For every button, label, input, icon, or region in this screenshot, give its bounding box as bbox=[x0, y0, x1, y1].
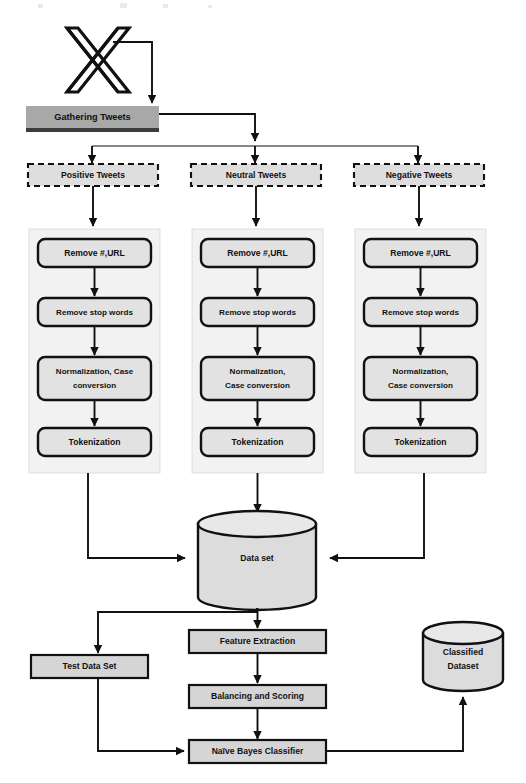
pipeline-positive-step-remove-url: Remove #,URL bbox=[38, 239, 151, 267]
step-label: Remove stop words bbox=[56, 308, 133, 317]
step-label-line1: Normalization, bbox=[230, 367, 286, 376]
step-label: Tokenization bbox=[395, 437, 447, 447]
pipeline-negative-step-remove-url: Remove #,URL bbox=[364, 239, 477, 267]
datastore-classified-dataset: Classified Dataset bbox=[423, 622, 503, 691]
step-label: Remove #,URL bbox=[390, 248, 451, 258]
pipeline-neutral-step-tokenization: Tokenization bbox=[201, 428, 314, 456]
connector-negative-to-dataset bbox=[330, 473, 424, 558]
step-label: Remove stop words bbox=[382, 308, 459, 317]
flowchart-diagram: Gathering Tweets Positive Tweets Neutral… bbox=[0, 0, 526, 783]
gathering-tweets-node: Gathering Tweets bbox=[26, 106, 159, 132]
data-set-label: Data set bbox=[240, 553, 274, 563]
step-label-line1: Normalization, bbox=[393, 367, 449, 376]
test-data-set-label: Test Data Set bbox=[63, 661, 117, 671]
node-balancing-and-scoring: Balancing and Scoring bbox=[189, 685, 326, 708]
classified-dataset-label-line1: Classified bbox=[443, 647, 484, 657]
pipeline-neutral-step-remove-stopwords: Remove stop words bbox=[201, 298, 314, 326]
node-test-data-set: Test Data Set bbox=[31, 655, 148, 678]
feature-extraction-label: Feature Extraction bbox=[220, 636, 295, 646]
flowchart-canvas: Gathering Tweets Positive Tweets Neutral… bbox=[0, 0, 526, 783]
datastore-data-set: Data set bbox=[198, 511, 316, 610]
branch-neutral-tweets: Neutral Tweets bbox=[191, 164, 321, 186]
pipeline-negative-step-normalization: Normalization, Case conversion bbox=[364, 357, 477, 400]
branch-positive-label: Positive Tweets bbox=[61, 170, 125, 180]
gathering-tweets-label: Gathering Tweets bbox=[54, 112, 130, 122]
step-label: Remove stop words bbox=[219, 308, 296, 317]
scan-artifacts bbox=[38, 3, 212, 8]
branch-negative-label: Negative Tweets bbox=[386, 170, 453, 180]
x-twitter-logo bbox=[67, 28, 129, 92]
step-label-line1: Normalization, Case bbox=[56, 367, 134, 376]
step-label-line2: conversion bbox=[73, 381, 116, 390]
step-label: Tokenization bbox=[69, 437, 121, 447]
pipeline-negative-step-remove-stopwords: Remove stop words bbox=[364, 298, 477, 326]
connector-classifier-to-classified-dataset bbox=[326, 697, 463, 751]
pipeline-negative-step-tokenization: Tokenization bbox=[364, 428, 477, 456]
node-naive-bayes-classifier: Naïve Bayes Classifier bbox=[189, 740, 326, 763]
branch-neutral-label: Neutral Tweets bbox=[226, 170, 287, 180]
connector-positive-to-dataset bbox=[88, 473, 185, 558]
pipeline-positive-step-normalization: Normalization, Case conversion bbox=[38, 357, 151, 400]
step-label: Tokenization bbox=[232, 437, 284, 447]
pipeline-positive-step-tokenization: Tokenization bbox=[38, 428, 151, 456]
step-label-line2: Case conversion bbox=[225, 381, 290, 390]
pipeline-neutral-step-remove-url: Remove #,URL bbox=[201, 239, 314, 267]
node-feature-extraction: Feature Extraction bbox=[189, 630, 326, 653]
branch-negative-tweets: Negative Tweets bbox=[354, 164, 484, 186]
step-label: Remove #,URL bbox=[227, 248, 288, 258]
step-label: Remove #,URL bbox=[64, 248, 125, 258]
pipeline-positive-step-remove-stopwords: Remove stop words bbox=[38, 298, 151, 326]
classified-dataset-label-line2: Dataset bbox=[447, 661, 478, 671]
balancing-and-scoring-label: Balancing and Scoring bbox=[211, 691, 304, 701]
step-label-line2: Case conversion bbox=[388, 381, 453, 390]
branch-positive-tweets: Positive Tweets bbox=[28, 164, 158, 186]
connector-gathering-to-bus bbox=[159, 114, 255, 141]
connector-test-data-to-classifier bbox=[98, 678, 184, 751]
connector-logo-to-gathering bbox=[113, 42, 152, 103]
pipeline-neutral-step-normalization: Normalization, Case conversion bbox=[201, 357, 314, 400]
naive-bayes-classifier-label: Naïve Bayes Classifier bbox=[212, 746, 304, 756]
